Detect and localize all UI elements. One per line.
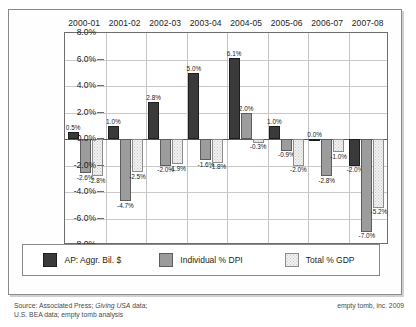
bar-group-2002-03: 2.8%-2.0%-1.9%: [146, 33, 186, 243]
bar-ap-2004-05[interactable]: [229, 58, 240, 139]
bar-slot: 2.0%: [241, 33, 252, 243]
bar-group-bars: 0.0%-2.8%-1.0%: [307, 33, 347, 243]
bar-slot: -1.8%: [212, 33, 223, 243]
bar-value-label-gdp-2005-06: -2.0%: [290, 166, 307, 173]
bar-slot: -2.5%: [132, 33, 143, 243]
source-line-1-post: data;: [130, 302, 147, 309]
source-line-2: U.S. BEA data; empty tomb analysis: [14, 310, 147, 319]
y-axis-tick-0: [97, 32, 104, 33]
bar-ind-2003-04[interactable]: [200, 139, 211, 160]
bar-gdp-2005-06[interactable]: [293, 139, 304, 166]
bar-slot: 2.8%: [148, 33, 159, 243]
y-axis-tick-7: [97, 218, 104, 219]
chart-footer: Source: Associated Press; Giving USA dat…: [14, 301, 404, 323]
bar-group-2003-04: 5.0%-1.6%-1.8%: [186, 33, 226, 243]
category-header-2004-05: 2004-05: [226, 15, 267, 31]
bar-ap-2007-08[interactable]: [349, 139, 360, 166]
bar-group-bars: 6.1%2.0%-0.3%: [226, 33, 266, 243]
bar-value-label-gdp-2002-03: -1.9%: [169, 165, 186, 172]
bar-group-2005-06: 1.0%-0.9%-2.0%: [266, 33, 306, 243]
bar-ind-2002-03[interactable]: [160, 139, 171, 166]
bar-ind-2005-06[interactable]: [281, 139, 292, 151]
bar-ind-2001-02[interactable]: [120, 139, 131, 201]
bar-slot: 5.0%: [188, 33, 199, 243]
category-header-row: 2000-012001-022002-032003-042004-052005-…: [64, 15, 388, 31]
bar-gdp-2007-08[interactable]: [373, 139, 384, 208]
y-axis-label-4: 0.0%: [56, 133, 96, 143]
bar-slot: 1.0%: [108, 33, 119, 243]
legend-item-0[interactable]: AP: Aggr. Bil. $: [23, 253, 142, 267]
bar-slot: -0.3%: [253, 33, 264, 243]
y-axis-tick-3: [97, 112, 104, 113]
bar-slot: -1.9%: [172, 33, 183, 243]
bar-value-label-gdp-2000-01: -2.8%: [89, 177, 106, 184]
category-header-2005-06: 2005-06: [267, 15, 308, 31]
bar-value-label-ap-2006-07: 0.0%: [307, 131, 322, 138]
bar-group-bars: 5.0%-1.6%-1.8%: [186, 33, 226, 243]
legend-label-2: Total % GDP: [306, 255, 355, 265]
y-axis-tick-1: [97, 59, 104, 60]
bar-gdp-2003-04[interactable]: [212, 139, 223, 163]
source-publication-name: Giving USA: [95, 302, 130, 309]
y-axis-label-0: 8.0%: [56, 27, 96, 37]
legend-item-1[interactable]: Individual % DPI: [142, 253, 261, 267]
bar-value-label-ap-2000-01: 0.5%: [66, 124, 81, 131]
legend-label-1: Individual % DPI: [180, 255, 242, 265]
y-axis-tick-4: [97, 138, 104, 139]
legend-swatch-gdp: [285, 253, 299, 267]
source-line-1: Source: Associated Press; Giving USA dat…: [14, 301, 147, 310]
bar-slot: -2.8%: [321, 33, 332, 243]
category-header-2002-03: 2002-03: [145, 15, 186, 31]
bar-value-label-ap-2001-02: 1.0%: [106, 118, 121, 125]
bar-ap-2005-06[interactable]: [269, 126, 280, 139]
bar-slot: -2.0%: [293, 33, 304, 243]
y-axis-tick-2: [97, 85, 104, 86]
y-axis-label-1: 6.0%: [56, 54, 96, 64]
bar-ap-2001-02[interactable]: [108, 126, 119, 139]
bar-ind-2004-05[interactable]: [241, 113, 252, 140]
bar-group-bars: 2.8%-2.0%-1.9%: [146, 33, 186, 243]
bar-ind-2007-08[interactable]: [361, 139, 372, 232]
plot-area: 0.5%-2.6%-2.8%1.0%-4.7%-2.5%2.8%-2.0%-1.…: [64, 32, 388, 244]
bar-gdp-2001-02[interactable]: [132, 139, 143, 172]
bar-slot: -2.0%: [349, 33, 360, 243]
y-axis-tick-5: [97, 165, 104, 166]
y-axis-label-7: -6.0%: [56, 213, 96, 223]
bar-group-2001-02: 1.0%-4.7%-2.5%: [105, 33, 145, 243]
bar-value-label-gdp-2006-07: -1.0%: [330, 153, 347, 160]
bar-group-bars: 1.0%-4.7%-2.5%: [105, 33, 145, 243]
bar-slot: -0.9%: [281, 33, 292, 243]
y-axis-label-5: -2.0%: [56, 160, 96, 170]
legend-item-2[interactable]: Total % GDP: [260, 253, 379, 267]
bar-group-2007-08: -2.0%-7.0%-5.2%: [347, 33, 387, 243]
source-line-1-pre: Source: Associated Press;: [14, 302, 95, 309]
bar-gdp-2004-05[interactable]: [253, 139, 264, 143]
legend-label-0: AP: Aggr. Bil. $: [64, 255, 121, 265]
copyright-note: empty tomb, inc. 2009: [337, 301, 404, 310]
bar-slot: -5.2%: [373, 33, 384, 243]
bar-slot: 6.1%: [229, 33, 240, 243]
bar-value-label-ap-2005-06: 1.0%: [267, 118, 282, 125]
bar-ap-2006-07[interactable]: [309, 139, 320, 141]
category-header-2006-07: 2006-07: [307, 15, 348, 31]
legend-swatch-ind: [159, 253, 173, 267]
bar-slot: -1.0%: [333, 33, 344, 243]
source-note: Source: Associated Press; Giving USA dat…: [14, 301, 147, 319]
bar-gdp-2002-03[interactable]: [172, 139, 183, 164]
bar-gdp-2000-01[interactable]: [92, 139, 103, 176]
bar-ap-2002-03[interactable]: [148, 102, 159, 139]
bar-groups: 0.5%-2.6%-2.8%1.0%-4.7%-2.5%2.8%-2.0%-1.…: [65, 33, 387, 243]
bar-slot: 0.0%: [309, 33, 320, 243]
bar-gdp-2006-07[interactable]: [333, 139, 344, 152]
bar-value-label-ap-2004-05: 6.1%: [227, 50, 242, 57]
bar-group-bars: 1.0%-0.9%-2.0%: [266, 33, 306, 243]
y-axis-label-6: -4.0%: [56, 186, 96, 196]
bar-slot: -4.7%: [120, 33, 131, 243]
category-header-2007-08: 2007-08: [348, 15, 389, 31]
bar-value-label-gdp-2004-05: -0.3%: [250, 143, 267, 150]
bar-value-label-gdp-2007-08: -5.2%: [371, 208, 388, 215]
bar-value-label-ap-2002-03: 2.8%: [146, 94, 161, 101]
bar-ap-2003-04[interactable]: [188, 73, 199, 139]
category-header-2003-04: 2003-04: [186, 15, 227, 31]
chart-legend: AP: Aggr. Bil. $Individual % DPITotal % …: [22, 244, 380, 276]
